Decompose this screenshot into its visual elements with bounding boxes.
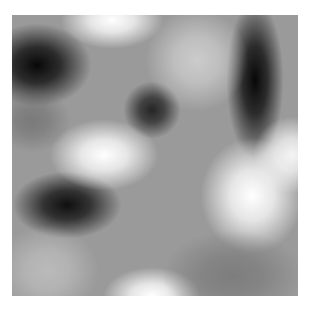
gray-patch-bottom-right	[161, 230, 299, 297]
noise-image	[12, 15, 298, 296]
